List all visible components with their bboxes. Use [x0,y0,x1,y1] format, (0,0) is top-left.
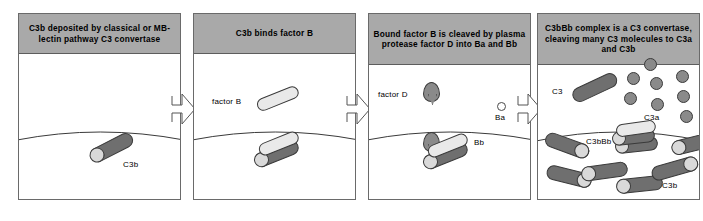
factor-b-label: factor B [212,97,241,106]
c3a-circle [650,77,663,90]
c3b-label: C3b [662,181,677,190]
c3-label: C3 [552,87,563,96]
panel-3: Bound factor B is cleaved by plasma prot… [368,13,531,200]
ba-molecule [497,102,506,111]
c3b-label: C3b [123,160,138,169]
diagram-canvas: C3b deposited by classical or MB-lectin … [0,0,703,221]
c3a-circle [644,58,657,71]
panel-1-body: C3b [19,14,180,199]
c3b-factorb-complex [250,134,310,172]
panel-4: C3bBb complex is a C3 convertase, cleavi… [537,13,700,200]
ba-label: Ba [495,113,505,122]
c3a-circle [627,72,640,85]
panel-2: C3b binds factor B factor B [193,13,356,200]
c3a-circle [624,92,637,105]
c3a-circle [651,98,664,111]
c3b-molecule [650,155,700,184]
panel-3-body: factor D Ba Bb [369,14,530,199]
c3-molecule [570,71,620,106]
c3a-circle [677,90,690,103]
panel-4-body: C3 C3a C3bBb [538,14,699,199]
panel-2-body: factor B [194,14,355,199]
c3bbb-complex [612,124,668,154]
factor-d-label: factor D [378,90,408,99]
c3a-circle [676,70,689,83]
panel-1: C3b deposited by classical or MB-lectin … [18,13,181,200]
c3bbb-label: C3bBb [586,137,611,146]
factor-b-molecule [255,84,301,113]
factor-d-molecule [423,82,440,102]
bb-label: Bb [474,138,484,147]
